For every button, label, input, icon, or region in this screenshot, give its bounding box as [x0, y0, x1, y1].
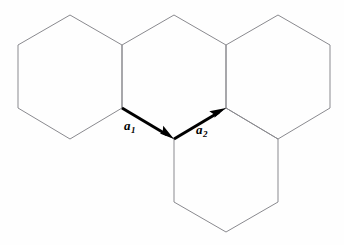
hexagon-lower-middle — [174, 108, 278, 232]
vector-label-a2-symbol: a — [196, 122, 203, 137]
vector-label-a2: a2 — [196, 123, 208, 139]
vector-label-a1: a1 — [124, 119, 136, 135]
honeycomb-lattice-figure: a1 a2 — [0, 0, 344, 245]
hexagon-upper-right — [226, 15, 330, 139]
vector-label-a2-subscript: 2 — [203, 129, 208, 139]
vector-label-a1-symbol: a — [124, 118, 131, 133]
hexagon-upper-middle — [122, 15, 226, 139]
hexagon-upper-left — [18, 15, 122, 139]
vector-label-a1-subscript: 1 — [131, 125, 136, 135]
lattice-svg — [0, 0, 344, 245]
